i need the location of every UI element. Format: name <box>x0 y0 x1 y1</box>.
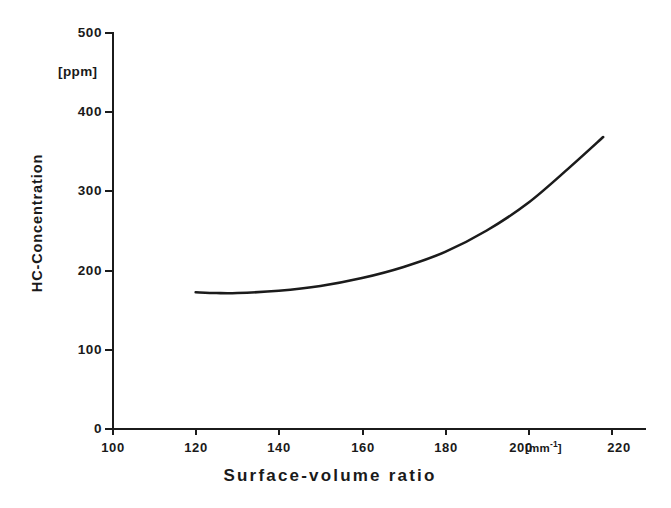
x-axis-tick <box>445 428 447 435</box>
y-axis-tick-label: 400 <box>56 105 102 119</box>
x-axis-tick-label: 160 <box>336 441 390 455</box>
y-axis-tick <box>105 349 113 351</box>
x-axis-tick-label: 140 <box>252 441 306 455</box>
x-axis-tick-label: 100 <box>86 441 140 455</box>
y-axis-tick-label: 500 <box>56 26 102 40</box>
x-axis-unit-exponent: -1 <box>550 439 558 449</box>
x-axis-tick-label: 180 <box>419 441 473 455</box>
y-axis-tick <box>105 111 113 113</box>
x-axis-tick <box>611 428 613 435</box>
x-axis-unit-label: [mm-1] <box>525 442 562 454</box>
y-axis-tick <box>105 270 113 272</box>
y-axis-tick-label: 200 <box>56 264 102 278</box>
data-series-curve <box>196 137 604 293</box>
x-axis-tick <box>528 428 530 435</box>
x-axis-title: Surface-volume ratio <box>150 466 510 486</box>
x-axis-tick <box>112 428 114 435</box>
y-axis-tick <box>105 190 113 192</box>
y-axis-title: HC-Concentration <box>29 123 45 323</box>
x-axis-tick-label: 120 <box>169 441 223 455</box>
y-axis-line <box>112 32 114 430</box>
x-axis-unit-close: ] <box>558 442 562 454</box>
y-axis-tick <box>105 32 113 34</box>
y-axis-tick-label: 0 <box>56 422 102 436</box>
x-axis-tick <box>278 428 280 435</box>
y-axis-unit-label: [ppm] <box>58 64 98 79</box>
x-axis-tick <box>195 428 197 435</box>
x-axis-unit-open: [mm <box>525 442 550 454</box>
x-axis-line <box>112 428 646 430</box>
x-axis-tick <box>362 428 364 435</box>
x-axis-tick-label: 220 <box>592 441 646 455</box>
chart-figure: 500 400 300 200 100 0 [ppm] 100 120 140 … <box>0 0 671 508</box>
y-axis-tick-label: 100 <box>56 343 102 357</box>
y-axis-tick-label: 300 <box>56 184 102 198</box>
